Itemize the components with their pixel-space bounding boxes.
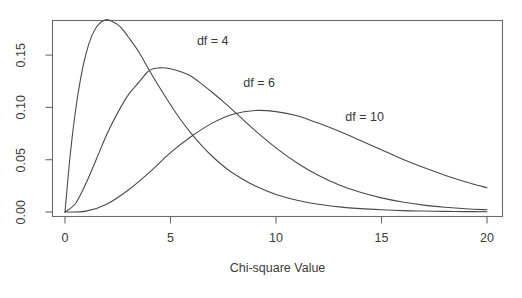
density-curve-df-10 — [65, 110, 487, 212]
plot-frame — [53, 21, 503, 217]
curve-annotation: df = 6 — [243, 77, 275, 90]
y-axis-tick-label: 0.15 — [14, 35, 27, 75]
curve-annotation: df = 4 — [197, 35, 229, 48]
x-axis-tick-label: 10 — [269, 232, 283, 245]
y-axis-tick-label: 0.10 — [14, 88, 27, 128]
plot-canvas — [0, 0, 522, 298]
y-axis-tick-label: 0.00 — [14, 192, 27, 232]
x-axis-tick-label: 0 — [62, 232, 69, 245]
x-axis-tick-label: 15 — [375, 232, 389, 245]
x-axis-tick-label: 20 — [480, 232, 494, 245]
chi-square-density-chart: 051015200.000.050.100.15df = 4df = 6df =… — [0, 0, 522, 298]
curve-annotation: df = 10 — [345, 111, 384, 124]
x-axis-tick-label: 5 — [167, 232, 174, 245]
y-axis-tick-label: 0.05 — [14, 140, 27, 180]
x-axis-title: Chi-square Value — [230, 262, 326, 275]
density-curve-df-4 — [65, 20, 487, 212]
